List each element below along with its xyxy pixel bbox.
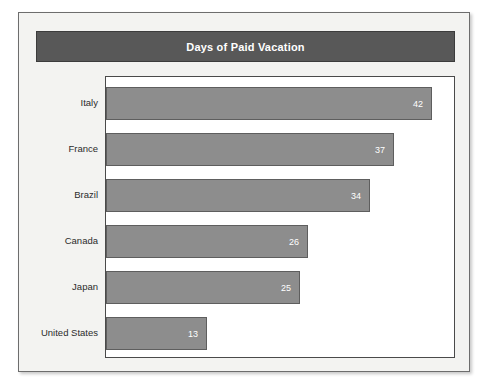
category-label-canada: Canada xyxy=(0,224,98,257)
bar-value-label: 26 xyxy=(289,237,307,247)
bar-row: 37 xyxy=(106,133,456,166)
bar-value-label: 13 xyxy=(188,329,206,339)
bar-row: 25 xyxy=(106,271,456,304)
bar-row: 34 xyxy=(106,179,456,212)
bar-row: 42 xyxy=(106,87,456,120)
chart-figure: Days of Paid Vacation 423734262513 Italy… xyxy=(0,0,487,390)
bar-value-label: 37 xyxy=(375,145,393,155)
category-label-japan: Japan xyxy=(0,270,98,303)
category-label-france: France xyxy=(0,132,98,165)
bar-value-label: 42 xyxy=(413,99,431,109)
chart-title: Days of Paid Vacation xyxy=(186,41,305,53)
category-label-brazil: Brazil xyxy=(0,178,98,211)
category-label-italy: Italy xyxy=(0,86,98,119)
bar-row: 26 xyxy=(106,225,456,258)
plot-area: 423734262513 xyxy=(105,76,455,358)
bars-container: 423734262513 xyxy=(106,77,454,357)
bar-france[interactable]: 37 xyxy=(106,133,394,166)
bar-italy[interactable]: 42 xyxy=(106,87,432,120)
chart-title-banner: Days of Paid Vacation xyxy=(36,31,455,62)
bar-row: 13 xyxy=(106,317,456,350)
bar-value-label: 25 xyxy=(281,283,299,293)
bar-japan[interactable]: 25 xyxy=(106,271,300,304)
bar-canada[interactable]: 26 xyxy=(106,225,308,258)
bar-brazil[interactable]: 34 xyxy=(106,179,370,212)
bar-value-label: 34 xyxy=(351,191,369,201)
category-label-united-states: United States xyxy=(0,316,98,349)
bar-united-states[interactable]: 13 xyxy=(106,317,207,350)
